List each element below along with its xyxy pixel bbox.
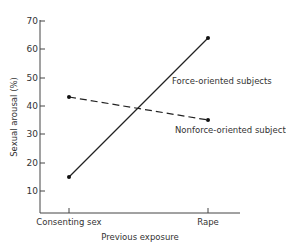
y-tick-50: 50 xyxy=(27,73,39,83)
line-chart: 70 60 50 40 30 20 10 Consenting sex Rape… xyxy=(0,0,286,244)
y-axis-label: Sexual arousal (%) xyxy=(9,77,19,157)
x-axis-label: Previous exposure xyxy=(101,232,179,242)
y-tick-10: 10 xyxy=(27,186,39,196)
y-tick-70: 70 xyxy=(27,16,39,26)
nonforce-series-label: Nonforce-oriented subjects xyxy=(175,125,286,135)
y-tick-30: 30 xyxy=(27,129,39,139)
y-tick-labels: 70 60 50 40 30 20 10 xyxy=(27,16,39,196)
y-tick-60: 60 xyxy=(27,44,39,54)
force-series-line xyxy=(69,38,208,177)
force-point-consenting xyxy=(67,175,71,179)
nonforce-series-line xyxy=(69,97,208,120)
force-series-label: Force-oriented subjects xyxy=(172,76,272,86)
x-tick-label-rape: Rape xyxy=(197,217,219,227)
chart-svg: 70 60 50 40 30 20 10 Consenting sex Rape… xyxy=(0,0,286,244)
nonforce-point-consenting xyxy=(67,95,71,99)
y-tick-20: 20 xyxy=(27,158,39,168)
nonforce-point-rape xyxy=(206,118,210,122)
y-tick-40: 40 xyxy=(27,101,39,111)
force-point-rape xyxy=(206,36,210,40)
x-tick-label-consenting: Consenting sex xyxy=(36,217,101,227)
y-ticks xyxy=(40,21,45,191)
